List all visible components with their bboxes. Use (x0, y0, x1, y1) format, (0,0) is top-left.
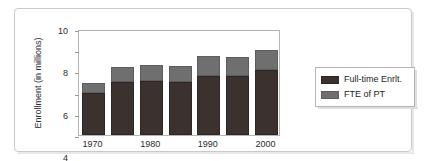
legend-shadow-bottom (318, 107, 418, 109)
y-axis-title: Enrollment (in millions) (32, 30, 44, 136)
bar-segment-full-time (140, 81, 163, 135)
figure-frame: Enrollment (in millions) 0246810 1970198… (14, 8, 412, 152)
legend-shadow-right (415, 70, 417, 109)
bar-segment-full-time (255, 70, 278, 135)
bar-segment-full-time (111, 82, 134, 135)
y-tick-mark: 0 (75, 137, 79, 138)
bar-segment-fte-of-pt (140, 65, 163, 81)
bar-group (140, 29, 163, 135)
x-tick-label: 2000 (256, 140, 276, 149)
bar-segment-full-time (226, 76, 249, 135)
bar-group (111, 29, 134, 135)
y-tick-label: 10 (58, 27, 68, 36)
y-tick-label: 4 (63, 154, 68, 161)
legend-label-full-time: Full-time Enrlt. (344, 75, 402, 84)
legend-swatch-full-time-icon (321, 76, 339, 84)
plot-area: 0246810 (78, 30, 280, 136)
legend-item-fte-of-pt: FTE of PT (321, 87, 409, 102)
y-tick-label: 6 (63, 111, 68, 120)
bar-group (197, 29, 220, 135)
chart-legend: Full-time Enrlt. FTE of PT (315, 67, 415, 107)
chart-screenshot: Enrollment (in millions) 0246810 1970198… (0, 0, 429, 161)
x-tick-label: 1970 (82, 140, 102, 149)
legend-item-full-time: Full-time Enrlt. (321, 72, 409, 87)
bar-segment-full-time (197, 76, 220, 135)
bar-segment-full-time (82, 93, 105, 135)
bar-group (255, 29, 278, 135)
y-tick-label: 8 (63, 69, 68, 78)
bar-group (82, 29, 105, 135)
legend-swatch-fte-of-pt-icon (321, 91, 339, 99)
bar-segment-fte-of-pt (197, 56, 220, 76)
bar-segment-fte-of-pt (226, 57, 249, 77)
bar-segment-full-time (169, 82, 192, 135)
bar-group (226, 29, 249, 135)
bar-segment-fte-of-pt (255, 50, 278, 71)
bar-segment-fte-of-pt (82, 83, 105, 93)
bar-group (169, 29, 192, 135)
bar-segment-fte-of-pt (169, 66, 192, 82)
x-tick-label: 1980 (140, 140, 160, 149)
figure-frame-shadow-bottom (18, 152, 414, 154)
legend-label-fte-of-pt: FTE of PT (344, 90, 385, 99)
bar-segment-fte-of-pt (111, 67, 134, 82)
x-tick-label: 1990 (198, 140, 218, 149)
bars-layer (79, 31, 279, 135)
